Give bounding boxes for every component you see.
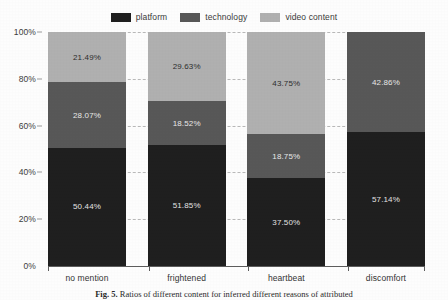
- x-axis-label-discomfort: discomfort: [347, 273, 425, 283]
- figure-caption: Fig. 5. Ratios of different content for …: [0, 289, 448, 299]
- figure-caption-text: Ratios of different content for inferred…: [120, 289, 353, 299]
- y-axis: 100% 80% 60% 40% 20% 0%: [0, 32, 42, 266]
- bar-value-label: 18.75%: [272, 152, 300, 161]
- y-axis-tick-80: 80%: [19, 74, 36, 84]
- bar-value-label: 50.44%: [73, 202, 101, 211]
- legend-item-platform: platform: [111, 12, 168, 22]
- x-axis-tickmark: [248, 267, 249, 271]
- bar-segment-technology[interactable]: 42.86%: [347, 32, 425, 132]
- bar-segment-technology[interactable]: 18.52%: [148, 101, 226, 144]
- bar-value-label: 29.63%: [173, 62, 201, 71]
- chart-legend: platform technology video content: [0, 12, 448, 22]
- x-axis-tickmark: [348, 267, 349, 271]
- plot-area: 21.49% 28.07% 50.44% 29.63% 18.52% 51.: [48, 32, 425, 266]
- legend-item-video-content: video content: [260, 12, 337, 22]
- bar-segment-platform[interactable]: 50.44%: [48, 148, 126, 266]
- y-axis-tick-60: 60%: [19, 121, 36, 131]
- y-axis-tick-40: 40%: [19, 167, 36, 177]
- bar-value-label: 43.75%: [272, 79, 300, 88]
- y-axis-tickmark-80: [37, 78, 42, 79]
- y-axis-tickmark-20: [37, 219, 42, 220]
- figure-stacked-bar-chart: platform technology video content 100% 8…: [0, 0, 448, 300]
- bar-segment-video-content[interactable]: 21.49%: [48, 32, 126, 82]
- y-axis-tick-100: 100%: [14, 27, 36, 37]
- y-axis-tickmark-100: [37, 32, 42, 33]
- x-axis-tickmark: [149, 267, 150, 271]
- y-axis-tick-0: 0%: [24, 261, 37, 271]
- legend-label-technology: technology: [205, 12, 247, 22]
- bar-segment-platform[interactable]: 51.85%: [148, 145, 226, 266]
- legend-swatch-technology: [180, 13, 200, 22]
- bar-value-label: 37.50%: [272, 218, 300, 227]
- legend-swatch-platform: [111, 13, 131, 22]
- bar-value-label: 42.86%: [372, 78, 400, 87]
- bar-segment-video-content[interactable]: 29.63%: [148, 32, 226, 101]
- x-axis-label-no-mention: no mention: [48, 273, 126, 283]
- y-axis-tickmark-40: [37, 172, 42, 173]
- legend-label-video-content: video content: [285, 12, 337, 22]
- bar-segment-video-content[interactable]: 43.75%: [247, 32, 325, 134]
- bar-series-container: 21.49% 28.07% 50.44% 29.63% 18.52% 51.: [48, 32, 425, 266]
- bar-value-label: 21.49%: [73, 53, 101, 62]
- legend-swatch-video-content: [260, 13, 280, 22]
- legend-label-platform: platform: [136, 12, 168, 22]
- bar-segment-platform[interactable]: 37.50%: [247, 178, 325, 266]
- bar-group-no-mention[interactable]: 21.49% 28.07% 50.44%: [48, 32, 126, 266]
- x-axis-label-frightened: frightened: [148, 273, 226, 283]
- x-axis: no mention frightened heartbeat discomfo…: [48, 273, 425, 283]
- figure-caption-prefix: Fig. 5.: [95, 289, 117, 299]
- bar-segment-technology[interactable]: 28.07%: [48, 82, 126, 148]
- bar-value-label: 28.07%: [73, 111, 101, 120]
- x-axis-label-heartbeat: heartbeat: [247, 273, 325, 283]
- legend-item-technology: technology: [180, 12, 247, 22]
- bar-group-frightened[interactable]: 29.63% 18.52% 51.85%: [148, 32, 226, 266]
- bar-value-label: 18.52%: [173, 119, 201, 128]
- bar-value-label: 51.85%: [173, 201, 201, 210]
- bar-segment-platform[interactable]: 57.14%: [347, 132, 425, 266]
- bar-value-label: 57.14%: [372, 195, 400, 204]
- bar-group-discomfort[interactable]: 42.86% 57.14%: [347, 32, 425, 266]
- y-axis-tickmark-60: [37, 125, 42, 126]
- y-axis-tick-20: 20%: [19, 214, 36, 224]
- x-axis-line: [48, 266, 425, 271]
- bar-group-heartbeat[interactable]: 43.75% 18.75% 37.50%: [247, 32, 325, 266]
- bar-segment-technology[interactable]: 18.75%: [247, 134, 325, 178]
